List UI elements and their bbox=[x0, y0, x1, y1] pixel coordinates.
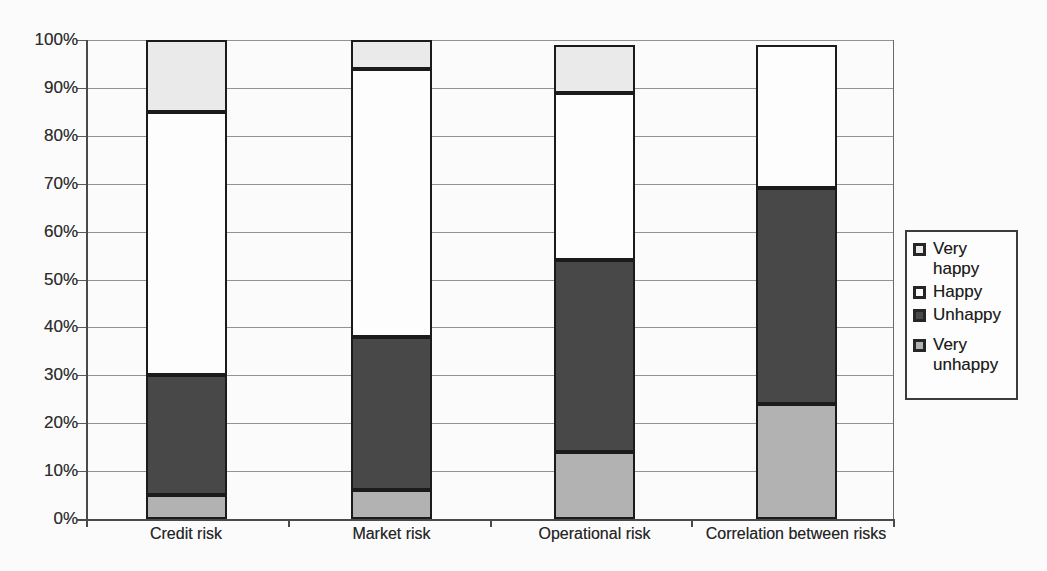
y-axis-tick bbox=[77, 423, 86, 424]
bar-segment-unhappy bbox=[351, 337, 432, 490]
y-axis-tick-label: 10% bbox=[18, 461, 78, 481]
legend-item-very-happy: Very happy bbox=[913, 239, 1011, 279]
bar-segment-happy bbox=[554, 93, 635, 261]
y-axis-tick-label: 0% bbox=[18, 509, 78, 529]
y-axis-tick bbox=[77, 327, 86, 328]
legend-item-unhappy: Unhappy bbox=[913, 305, 1011, 325]
bar-segment-very-unhappy bbox=[146, 495, 227, 519]
legend-label: Very unhappy bbox=[933, 335, 1011, 375]
bar-segment-happy bbox=[351, 69, 432, 337]
category-label: Correlation between risks bbox=[686, 524, 906, 544]
bar-market-risk bbox=[351, 40, 432, 519]
legend-item-very-unhappy: Very unhappy bbox=[913, 335, 1011, 375]
bar-segment-very-happy bbox=[146, 40, 227, 112]
legend: Very happyHappyUnhappyVery unhappy bbox=[905, 230, 1018, 400]
y-axis-line bbox=[86, 40, 88, 526]
y-axis-tick-label: 100% bbox=[18, 30, 78, 50]
legend-label: Very happy bbox=[933, 239, 1011, 279]
category-label: Market risk bbox=[282, 524, 502, 544]
legend-swatch-icon bbox=[913, 339, 926, 352]
bar-segment-unhappy bbox=[554, 260, 635, 452]
bar-segment-unhappy bbox=[756, 188, 837, 404]
bar-credit-risk bbox=[146, 40, 227, 519]
legend-swatch-icon bbox=[913, 243, 926, 256]
bar-segment-very-unhappy bbox=[756, 404, 837, 519]
y-axis-tick-label: 30% bbox=[18, 365, 78, 385]
bar-segment-unhappy bbox=[146, 375, 227, 495]
y-axis-tick bbox=[77, 40, 86, 41]
y-axis-tick-label: 60% bbox=[18, 222, 78, 242]
y-axis-tick bbox=[77, 136, 86, 137]
y-axis-tick bbox=[77, 375, 86, 376]
bar-segment-very-unhappy bbox=[351, 490, 432, 519]
y-axis-tick-label: 50% bbox=[18, 270, 78, 290]
y-axis-tick-label: 90% bbox=[18, 78, 78, 98]
bar-segment-very-unhappy bbox=[554, 452, 635, 519]
y-axis-tick bbox=[77, 232, 86, 233]
category-label: Operational risk bbox=[485, 524, 705, 544]
legend-label: Unhappy bbox=[933, 305, 1001, 325]
bar-operational-risk bbox=[554, 45, 635, 519]
y-axis-tick-label: 70% bbox=[18, 174, 78, 194]
legend-swatch-icon bbox=[913, 309, 926, 322]
y-axis-tick bbox=[77, 88, 86, 89]
plot-area: 0%10%20%30%40%50%60%70%80%90%100%Credit … bbox=[0, 0, 1047, 571]
category-label: Credit risk bbox=[76, 524, 296, 544]
bar-segment-very-happy bbox=[554, 45, 635, 93]
bar-segment-happy bbox=[756, 45, 837, 189]
y-axis-tick-label: 80% bbox=[18, 126, 78, 146]
plot-right-border bbox=[893, 40, 894, 519]
legend-label: Happy bbox=[933, 282, 982, 302]
bar-correlation-between-risks bbox=[756, 45, 837, 519]
bar-segment-very-happy bbox=[351, 40, 432, 69]
y-axis-tick bbox=[77, 471, 86, 472]
x-axis-line bbox=[77, 519, 893, 521]
y-axis-tick-label: 20% bbox=[18, 413, 78, 433]
bar-segment-happy bbox=[146, 112, 227, 375]
y-axis-tick-label: 40% bbox=[18, 317, 78, 337]
legend-swatch-icon bbox=[913, 286, 926, 299]
y-axis-tick bbox=[77, 280, 86, 281]
scanned-chart-page: 0%10%20%30%40%50%60%70%80%90%100%Credit … bbox=[0, 0, 1047, 571]
y-axis-tick bbox=[77, 184, 86, 185]
legend-item-happy: Happy bbox=[913, 282, 1011, 302]
